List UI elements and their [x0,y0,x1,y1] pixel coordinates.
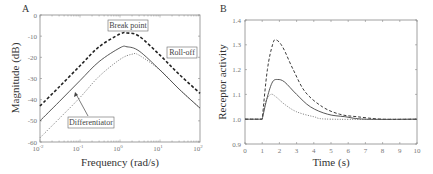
y-tick-label-a: -40 [28,96,38,104]
figure-svg: A0-10-20-30-40-50-6010-210-1100101102Fre… [0,0,433,174]
y-tick-label-b: 1.2 [232,66,241,74]
series-b-dashed [245,40,417,120]
panel-a-label: A [22,3,30,14]
panel-b-label: B [220,3,227,14]
x-tick-label-b: 4 [312,147,316,155]
y-tick-label-b: 1.3 [232,41,241,49]
y-axis-label-b: Receptor activity [216,44,228,120]
annotation-roll-off: Roll-off [169,48,195,57]
x-tick-label-b: 3 [295,147,299,155]
x-tick-label-b: 2 [278,147,282,155]
x-tick-label-b: 0 [243,147,247,155]
x-tick-label-b: 10 [414,147,422,155]
y-tick-label-a: 0 [34,12,38,20]
x-tick-label-a: 10-2 [32,144,44,153]
x-tick-label-b: 6 [346,147,350,155]
y-tick-label-b: 1.1 [232,91,241,99]
x-tick-label-b: 9 [398,147,402,155]
series-a-dotted [40,53,200,137]
y-tick-label-a: -30 [28,75,38,83]
x-tick-label-a: 102 [193,144,203,153]
y-tick-label-a: -50 [28,117,38,125]
plot-b-frame [245,20,417,144]
y-tick-label-a: -10 [28,33,38,41]
x-tick-label-b: 7 [364,147,368,155]
y-axis-label-a: Magnitude (dB) [9,42,22,113]
series-b-dotted [245,94,417,119]
plot-a-frame [40,15,200,142]
annotation-differentiator: Differentiator [69,118,113,127]
annotation-break-point: Break point [109,21,147,30]
x-tick-label-a: 101 [153,144,163,153]
y-tick-label-a: -20 [28,54,38,62]
x-tick-label-b: 5 [329,147,333,155]
figure: A0-10-20-30-40-50-6010-210-1100101102Fre… [0,0,433,174]
x-axis-label-b: Time (s) [312,156,350,169]
series-a-dashed [40,33,200,106]
differentiator-arrow [76,94,88,116]
y-tick-label-b: 0.9 [232,141,241,149]
y-tick-label-b: 1.4 [232,17,241,25]
series-b-solid [245,79,417,119]
x-tick-label-b: 1 [260,147,264,155]
y-tick-label-b: 1.0 [232,116,241,124]
x-axis-label-a: Frequency (rad/s) [81,156,159,169]
x-tick-label-b: 8 [381,147,385,155]
x-tick-label-a: 10-1 [72,144,84,153]
x-tick-label-a: 100 [113,144,123,153]
